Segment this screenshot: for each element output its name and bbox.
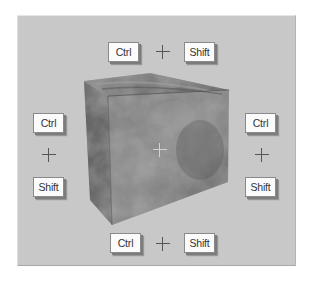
top-shift-key: Shift <box>184 42 215 62</box>
left-plus-icon <box>42 148 56 162</box>
top-plus-icon <box>156 45 170 59</box>
right-ctrl-key: Ctrl <box>245 113 276 133</box>
bottom-shift-key: Shift <box>184 233 215 253</box>
center-crosshair-icon <box>153 143 167 157</box>
right-shift-key: Shift <box>245 177 276 197</box>
bottom-ctrl-key: Ctrl <box>110 233 141 253</box>
top-ctrl-key: Ctrl <box>108 42 139 62</box>
left-shift-key: Shift <box>33 177 64 197</box>
bottom-plus-icon <box>156 237 170 251</box>
right-plus-icon <box>255 148 269 162</box>
left-ctrl-key: Ctrl <box>33 113 64 133</box>
